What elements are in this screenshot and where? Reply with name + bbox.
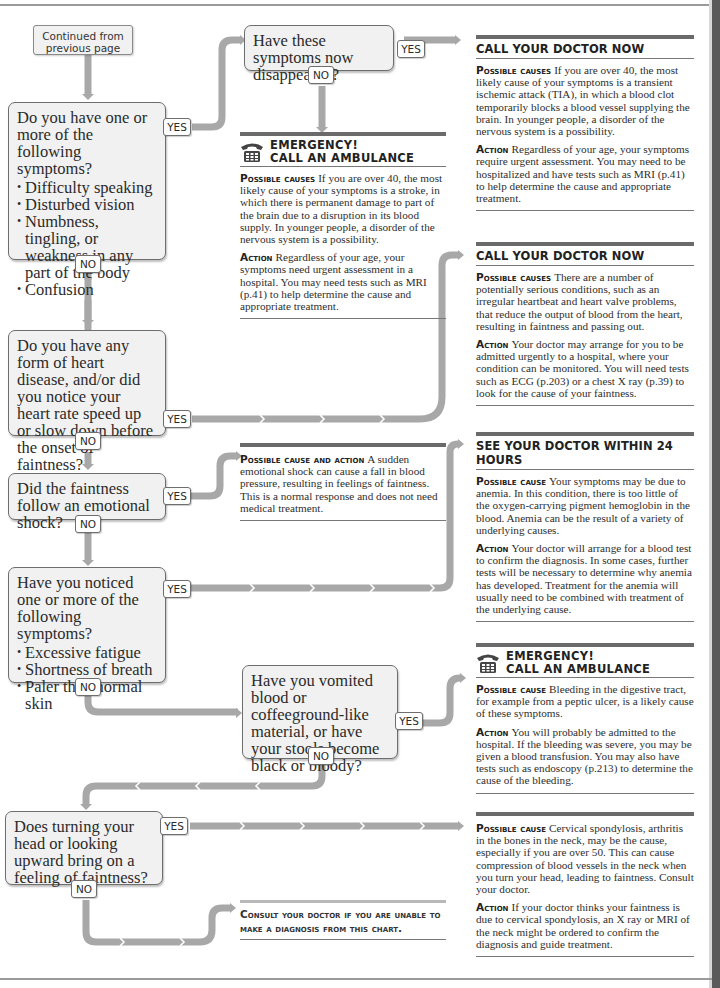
divider [240,520,446,521]
question-emotional-shock: Did the faintness follow an emotional sh… [8,473,166,520]
divider [240,939,446,940]
possible-causes-paragraph: Possible causesThere are a number of pot… [476,271,694,332]
possible-causes-paragraph: Possible causeBleeding in the digestive … [476,683,694,720]
possible-causes-paragraph: Possible causeCervical spondylosis, arth… [476,822,694,895]
action-paragraph: ActionYour doctor will arrange for a blo… [476,542,694,615]
question-text: Does turning your head or looking upward… [14,818,154,886]
symptom-item: Disturbed vision [17,196,157,213]
divider [476,210,694,211]
question-fatigue-symptoms: Have you noticed one or more of the foll… [8,567,166,683]
answer-emotional-shock: Possible cause and actionA sudden emotio… [240,443,446,521]
action-paragraph: ActionIf your doctor thinks your faintne… [476,901,694,950]
yes-tag: YES [163,118,191,136]
question-vomited-blood: Have you vomited blood or coffeeground-l… [242,665,398,759]
question-symptoms-disappeared: Have these symptoms now disappeared? [244,25,394,71]
action-paragraph: ActionRegardless of your age, your sympt… [240,251,446,312]
question-text: Have you noticed one or more of the foll… [17,574,157,642]
yes-tag: YES [163,410,191,428]
answer-heading: SEE YOUR DOCTOR WITHIN 24 HOURS [476,439,694,470]
telephone-icon [240,141,264,163]
answer-see-doctor-anemia: SEE YOUR DOCTOR WITHIN 24 HOURS Possible… [476,432,694,622]
answer-cervical-spondylosis: Possible causeCervical spondylosis, arth… [476,812,694,957]
telephone-icon [476,652,500,674]
possible-causes-label: Possible causes [476,64,551,76]
question-turning-head: Does turning your head or looking upward… [5,811,163,885]
question-heart-disease: Do you have any form of heart disease, a… [8,330,166,436]
answer-emergency-bleeding: EMERGENCY!CALL AN AMBULANCE Possible cau… [476,643,694,794]
action-paragraph: ActionYou will probably be admitted to t… [476,726,694,787]
emergency-heading: EMERGENCY!CALL AN AMBULANCE [240,139,446,167]
no-tag: NO [308,66,334,84]
yes-tag: YES [163,580,191,598]
divider [476,956,694,957]
symptom-item: Excessive fatigue [17,644,157,661]
no-tag: NO [75,678,101,696]
answer-call-doctor-tia: CALL YOUR DOCTOR NOW Possible causesIf y… [476,35,694,211]
no-tag: NO [308,747,334,765]
symptom-item: Confusion [17,281,157,298]
continued-from-previous-page: Continued from previous page [33,25,133,55]
emergency-heading: EMERGENCY!CALL AN AMBULANCE [476,650,694,678]
answer-heading: CALL YOUR DOCTOR NOW [476,42,694,59]
heading-bar [476,643,694,647]
question-text: Do you have one or more of the following… [17,109,157,177]
yes-tag: YES [160,817,188,835]
answer-heading: CALL YOUR DOCTOR NOW [476,249,694,266]
heading-bar [240,900,446,903]
answer-call-doctor-heart: CALL YOUR DOCTOR NOW Possible causesTher… [476,242,694,406]
heading-bar [240,443,446,447]
divider [476,621,694,622]
no-tag: NO [71,880,97,898]
no-tag: NO [75,515,101,533]
action-paragraph: ActionRegardless of your age, your sympt… [476,143,694,204]
bottom-rule [0,978,712,980]
heading-bar [476,242,694,246]
possible-causes-paragraph: Possible causeYour symptoms may be due t… [476,475,694,536]
yes-tag: YES [163,487,191,505]
heading-bar [240,132,446,136]
yes-tag: YES [395,712,423,730]
no-tag: NO [75,432,101,450]
symptom-item: Difficulty speaking [17,179,157,196]
action-label: Action [476,143,508,155]
divider [240,318,446,319]
question-speech-vision-symptoms: Do you have one or more of the following… [8,102,166,260]
yes-tag: YES [397,40,425,58]
question-text: Do you have any form of heart disease, a… [17,337,157,473]
symptom-item: Shortness of breath [17,661,157,678]
possible-causes-paragraph: Possible causesIf you are over 40, the m… [240,172,446,245]
action-paragraph: ActionYour doctor may arrange for you to… [476,338,694,399]
consult-text: Consult your doctor if you are unable to… [240,907,446,935]
heading-bar [476,35,694,39]
heading-bar [476,432,694,436]
symptom-list: Difficulty speaking Disturbed vision Num… [17,179,157,298]
no-tag: NO [75,255,101,273]
cause-and-action-paragraph: Possible cause and actionA sudden emotio… [240,453,446,514]
divider [476,793,694,794]
heading-bar [476,812,694,816]
possible-causes-paragraph: Possible causesIf you are over 40, the m… [476,64,694,137]
answer-emergency-stroke: EMERGENCY!CALL AN AMBULANCE Possible cau… [240,132,446,319]
consult-doctor-note: Consult your doctor if you are unable to… [240,900,446,940]
divider [476,405,694,406]
